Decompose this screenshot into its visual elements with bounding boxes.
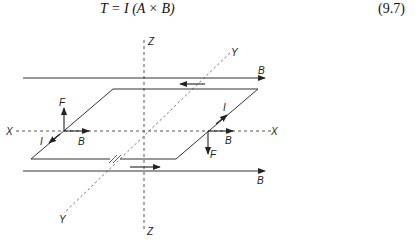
- left-current-label: I: [40, 136, 43, 147]
- left-force-label: F: [59, 97, 66, 108]
- left-field-label: B: [78, 136, 85, 147]
- x-left-label: X: [5, 126, 13, 137]
- right-current-label: I: [223, 102, 226, 113]
- right-force-label: F: [210, 149, 217, 160]
- z-bottom-label: Z: [146, 226, 154, 237]
- bottom-field-label: B: [257, 175, 264, 186]
- y-bottom-label: Y: [59, 214, 67, 225]
- top-field-label: B: [258, 65, 265, 76]
- right-field-label: B: [225, 135, 232, 146]
- y-top-label: Y: [231, 47, 239, 58]
- y-axis: [64, 53, 230, 213]
- current-loop-diagram: Z Z Y Y X X B B F B I F B I: [0, 0, 418, 240]
- left-current-arrow: [49, 134, 60, 143]
- right-current-arrow: [216, 115, 227, 124]
- x-right-label: X: [270, 126, 278, 137]
- z-top-label: Z: [147, 36, 155, 47]
